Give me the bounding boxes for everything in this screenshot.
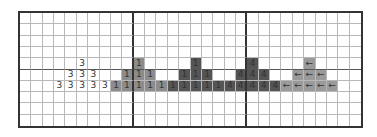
grid-cell-empty: [304, 36, 315, 47]
grid-cell-empty: [31, 81, 42, 92]
grid-cell-empty: [31, 92, 42, 103]
grid-cell-empty: [77, 92, 88, 103]
grid-cell-empty: [100, 58, 111, 69]
grid-cell-empty: [236, 47, 247, 58]
grid-cell-empty: [247, 115, 258, 126]
grid-cell-filled: ←: [304, 81, 315, 92]
grid-cell-empty: [145, 24, 156, 35]
grid-cell-empty: [54, 92, 65, 103]
grid-cell-empty: [213, 92, 224, 103]
grid-cell-filled: 1: [122, 70, 133, 81]
grid-cell-empty: [43, 81, 54, 92]
grid-cell-filled: 4: [225, 81, 236, 92]
grid-cell-empty: [179, 58, 190, 69]
grid-cell-empty: [202, 103, 213, 114]
grid-cell-empty: [31, 13, 42, 24]
grid-cell-empty: [213, 47, 224, 58]
grid-cell-empty: [225, 115, 236, 126]
grid-cell-empty: [327, 115, 338, 126]
grid-cell-empty: [350, 24, 361, 35]
grid-cell-filled: 1: [145, 70, 156, 81]
grid-cell-empty: [134, 47, 145, 58]
grid-cell-empty: [236, 36, 247, 47]
grid-cell-empty: [270, 115, 281, 126]
grid-cell-empty: [327, 24, 338, 35]
grid-cell-filled: ←: [327, 81, 338, 92]
grid-cell-empty: [202, 24, 213, 35]
grid-cell-empty: [350, 92, 361, 103]
grid-cell-empty: [145, 36, 156, 47]
grid-cell-empty: [77, 13, 88, 24]
grid-cell-empty: [43, 47, 54, 58]
grid-cell-empty: [304, 92, 315, 103]
grid-cell-empty: [54, 115, 65, 126]
grid-cell-empty: [327, 47, 338, 58]
grid-cell-filled: 4: [259, 81, 270, 92]
grid-cell-empty: [327, 36, 338, 47]
grid-cell-filled: ←: [304, 58, 315, 69]
grid-cell-filled: 4: [247, 81, 258, 92]
grid-cell-empty: [236, 92, 247, 103]
grid-cell-empty: [259, 47, 270, 58]
grid-cell-empty: [54, 70, 65, 81]
grid-cell-empty: [281, 103, 292, 114]
grid-cell-empty: [20, 58, 31, 69]
grid-cell-empty: [293, 115, 304, 126]
grid-cell-empty: [293, 36, 304, 47]
grid-cell-empty: [43, 36, 54, 47]
grid-cell-empty: [43, 92, 54, 103]
grid-cell-empty: [31, 70, 42, 81]
grid-cell-empty: [179, 36, 190, 47]
grid-cell-empty: [338, 70, 349, 81]
grid-cell-empty: [316, 36, 327, 47]
grid-cell-empty: [259, 36, 270, 47]
grid-cell-empty: [156, 58, 167, 69]
grid-cell-empty: [20, 115, 31, 126]
grid-cell-empty: [100, 115, 111, 126]
grid-cell-empty: [54, 58, 65, 69]
grid-cell-empty: [191, 92, 202, 103]
grid-cell-empty: [20, 24, 31, 35]
grid-cell-filled: 4: [259, 70, 270, 81]
grid-cell-empty: [225, 58, 236, 69]
grid-cell-empty: [156, 70, 167, 81]
grid-cell-empty: [304, 13, 315, 24]
grid-cell-filled: 1: [145, 81, 156, 92]
grid-cell-empty: [156, 115, 167, 126]
grid-cell-empty: [350, 103, 361, 114]
grid-cell-empty: [316, 92, 327, 103]
grid-cell-filled: ←: [293, 81, 304, 92]
grid-cell-empty: [281, 70, 292, 81]
grid-cell-empty: [43, 103, 54, 114]
grid-cell-empty: [281, 13, 292, 24]
grid-cell-empty: [213, 103, 224, 114]
grid-cell-empty: [259, 103, 270, 114]
grid-cell-empty: [111, 103, 122, 114]
grid-cell-empty: [31, 103, 42, 114]
grid-cell-empty: [31, 36, 42, 47]
grid-cell-empty: [236, 58, 247, 69]
grid-cell-empty: [20, 70, 31, 81]
grid-cell-empty: [259, 92, 270, 103]
grid-cell-filled: 1: [179, 81, 190, 92]
grid-cell-empty: [88, 58, 99, 69]
grid-cell-empty: [259, 13, 270, 24]
grid-cell-empty: [191, 13, 202, 24]
grid-cell-empty: [213, 36, 224, 47]
grid-cell-filled: 1: [202, 81, 213, 92]
grid-cell-filled: 1: [191, 58, 202, 69]
grid-cell-empty: [247, 13, 258, 24]
grid-cell-filled: 3: [77, 70, 88, 81]
grid-cell-empty: [20, 36, 31, 47]
grid-cell-empty: [111, 13, 122, 24]
grid-cell-empty: [202, 47, 213, 58]
grid-cell-empty: [293, 24, 304, 35]
grid-cell-empty: [168, 92, 179, 103]
grid-cell-empty: [191, 115, 202, 126]
grid-cell-empty: [270, 24, 281, 35]
grid-cell-empty: [293, 58, 304, 69]
grid-cell-empty: [100, 13, 111, 24]
grid-cell-empty: [168, 115, 179, 126]
grid-cell-empty: [225, 70, 236, 81]
grid-cell-empty: [31, 24, 42, 35]
